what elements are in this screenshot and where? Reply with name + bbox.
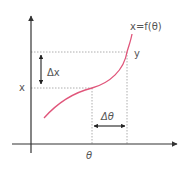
- delta-x-label: Δx: [47, 67, 60, 78]
- delta-theta-label: Δθ: [100, 111, 114, 122]
- theta-point-label: θ: [86, 150, 92, 161]
- function-diagram: x=f(θ) y x Δx Δθ θ: [0, 0, 185, 170]
- y-point-label: y: [134, 48, 140, 59]
- curve-label: x=f(θ): [130, 21, 162, 32]
- x-point-label: x: [19, 82, 25, 93]
